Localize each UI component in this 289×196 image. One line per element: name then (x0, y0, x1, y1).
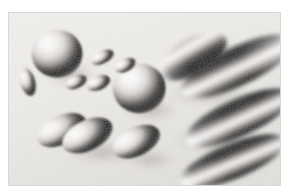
artwork-plate (8, 12, 281, 186)
illustration-canvas: A grayscale rendering of spheres and elo… (0, 0, 289, 196)
artwork-svg (8, 12, 281, 186)
sphere-upper-left (32, 30, 83, 78)
